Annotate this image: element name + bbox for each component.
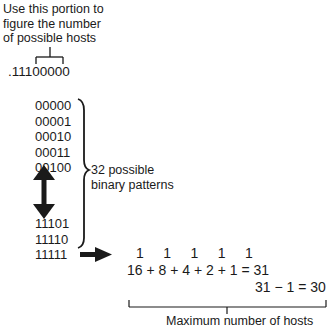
pattern-item: 00100 xyxy=(35,160,71,176)
curly-brace-icon xyxy=(78,99,89,248)
mask-bracket-icon xyxy=(36,47,63,64)
pattern-item: 11101 xyxy=(35,216,69,232)
brace-label-line2: binary patterns xyxy=(91,178,174,193)
subnet-mask-octet: .11100000 xyxy=(8,64,70,79)
bottom-caption: Maximum number of hosts xyxy=(166,314,313,329)
pattern-item: 00001 xyxy=(35,114,71,130)
pattern-item: 00011 xyxy=(35,145,71,161)
pattern-item: 00000 xyxy=(35,98,71,114)
patterns-bottom-list: 11101 11110 11111 xyxy=(35,216,69,263)
brace-label-line1: 32 possible xyxy=(91,163,174,178)
bottom-bracket-icon xyxy=(129,300,326,314)
pattern-item: 00010 xyxy=(35,129,71,145)
patterns-top-list: 00000 00001 00010 00011 00100 xyxy=(35,98,71,176)
bit-row: 1 1 1 1 1 xyxy=(136,245,253,261)
brace-label: 32 possible binary patterns xyxy=(91,163,174,192)
subtract-row: 31 − 1 = 30 xyxy=(255,279,326,295)
pattern-item: 11111 xyxy=(35,247,69,263)
pattern-item: 11110 xyxy=(35,232,69,248)
right-arrow-icon xyxy=(80,247,112,262)
sum-row: 16 + 8 + 4 + 2 + 1 = 31 xyxy=(127,262,269,278)
